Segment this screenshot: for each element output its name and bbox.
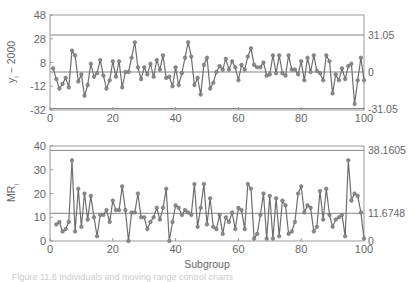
data-point [252,237,256,241]
data-point [303,211,307,215]
y-tick-label: 48 [34,9,46,21]
data-point [202,182,206,186]
data-point [281,71,285,75]
bottom-limit-labels: 38.160511.67480 [368,144,406,247]
limit-label-ucl: 31.05 [368,29,394,41]
data-point [271,237,275,241]
data-point [77,80,81,84]
data-point [136,66,140,70]
data-point [58,220,62,224]
bottom-y-axis-label: MRi [5,184,20,202]
data-point [328,213,332,217]
data-point [208,87,212,91]
data-point [234,66,238,70]
data-point [303,79,307,83]
data-point [234,227,238,231]
data-point [114,75,118,79]
data-point [312,230,316,234]
data-point [73,230,77,234]
data-point [51,67,55,71]
data-point [306,204,310,208]
data-point [347,159,351,163]
data-point [277,54,281,58]
data-point [334,218,338,222]
data-point [146,227,150,231]
data-point [155,206,159,210]
data-point [127,70,131,74]
data-point [284,74,288,78]
data-point [102,74,106,78]
data-point [80,225,84,229]
data-point [318,71,322,75]
data-point [265,237,269,241]
data-point [196,76,200,80]
figure-caption: Figure 11.8 Individuals and moving range… [12,272,233,282]
data-point [230,60,234,64]
data-point [362,237,366,241]
data-point [334,73,338,77]
data-point [240,208,244,212]
data-point [205,56,209,60]
data-point [120,86,124,90]
x-tick-label: 80 [295,112,307,124]
y-tick-label: 0 [40,235,46,247]
y-tick-label: 28 [34,33,46,45]
data-point [299,60,303,64]
data-point [193,83,197,87]
data-point [325,187,329,191]
data-point [321,79,325,83]
data-point [199,93,203,97]
data-point [262,192,266,196]
data-point [315,225,319,229]
y-tick-label: 20 [34,188,46,200]
data-point [61,230,65,234]
data-point [321,218,325,222]
data-point [287,232,291,236]
data-point [208,197,212,201]
data-point [73,54,77,58]
data-point [67,86,71,90]
data-point [284,204,288,208]
data-point [268,73,272,77]
data-point [237,206,241,210]
data-point [190,55,194,59]
data-point [221,232,225,236]
data-point [274,71,278,75]
individuals-chart: 48288-12-32 020406080100 31.050-31.05 yi… [5,9,398,124]
data-point [331,92,335,96]
data-point [55,223,59,227]
individuals-series-line [53,42,364,104]
data-point [350,62,354,66]
data-point [343,235,347,239]
data-point [95,71,99,75]
data-point [356,194,360,198]
data-point [70,49,74,53]
data-point [218,64,222,68]
moving-range-chart: 403020100 020406080100 38.160511.67480 M… [5,140,406,270]
data-point [102,213,106,217]
data-point [359,211,363,215]
data-point [83,192,87,196]
data-point [328,60,332,64]
y-tick-label: -32 [30,104,46,116]
data-point [139,77,143,81]
data-point [136,192,140,196]
data-point [343,77,347,81]
data-point [218,213,222,217]
data-point [177,83,181,87]
y-tick-label: 30 [34,164,46,176]
data-point [315,69,319,73]
data-point [268,194,272,198]
x-tick-label: 60 [232,243,244,255]
x-tick-label: 20 [107,112,119,124]
data-point [171,220,175,224]
data-point [340,213,344,217]
data-point [252,63,256,67]
data-point [196,225,200,229]
data-point [133,211,137,215]
x-axis-label: Subgroup [184,258,230,270]
data-point [168,239,172,243]
data-point [180,71,184,75]
data-point [362,79,366,83]
